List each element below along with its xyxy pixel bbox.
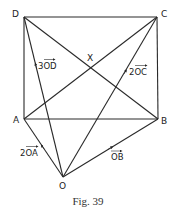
point-label-x: X — [87, 53, 93, 63]
point-label-c: C — [161, 9, 167, 19]
segment-cb — [157, 17, 158, 119]
arrow-ob-icon — [108, 147, 112, 150]
vector-label-3od-text: 3OD — [38, 61, 57, 71]
point-label-b: B — [161, 116, 167, 126]
segment-oc — [63, 17, 157, 177]
vector-diagram: D C A B O X 3OD 2OC 2OA OB Fig. 39 — [0, 0, 174, 218]
point-label-a: A — [13, 115, 20, 125]
point-label-o: O — [59, 181, 66, 191]
vector-label-3od: 3OD — [38, 60, 57, 72]
vector-label-2oa-text: 2OA — [20, 148, 38, 158]
point-label-d: D — [12, 9, 19, 19]
vector-label-ob-text: OB — [111, 152, 124, 162]
vector-label-2oc-text: 2OC — [129, 67, 147, 77]
vector-label-2oc: 2OC — [129, 66, 147, 78]
vector-label-2oa: 2OA — [20, 147, 38, 159]
vector-label-ob: OB — [111, 151, 124, 162]
figure-caption: Fig. 39 — [72, 195, 104, 207]
